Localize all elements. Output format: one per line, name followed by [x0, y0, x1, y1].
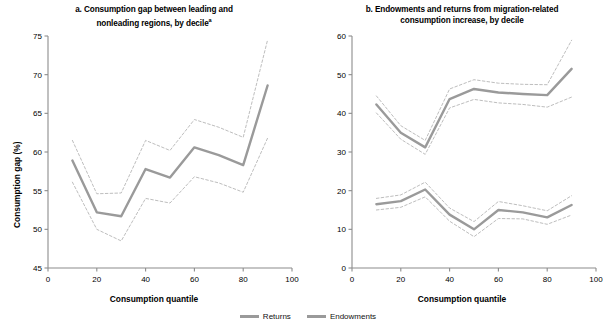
svg-text:10: 10	[337, 225, 346, 234]
svg-text:60: 60	[190, 275, 199, 284]
svg-text:65: 65	[33, 109, 42, 118]
svg-text:100: 100	[285, 275, 299, 284]
svg-text:40: 40	[337, 109, 346, 118]
panel-b-plot: 0102030405060020406080100	[308, 0, 616, 300]
svg-text:20: 20	[337, 187, 346, 196]
svg-text:70: 70	[33, 71, 42, 80]
legend-label-returns: Returns	[263, 312, 291, 321]
svg-text:60: 60	[33, 148, 42, 157]
svg-text:60: 60	[494, 275, 503, 284]
svg-text:0: 0	[342, 264, 347, 273]
legend-line-icon-returns	[240, 315, 259, 317]
chart-panel-a: a. Consumption gap between leading and n…	[0, 0, 308, 310]
legend-item-endowments: Endowments	[307, 312, 376, 321]
panel-a-x-axis-label: Consumption quantile	[0, 294, 308, 304]
svg-text:40: 40	[141, 275, 150, 284]
svg-text:100: 100	[589, 275, 603, 284]
svg-text:80: 80	[543, 275, 552, 284]
svg-text:60: 60	[337, 32, 346, 41]
panel-a-plot: 45505560657075020406080100	[0, 0, 308, 300]
svg-text:45: 45	[33, 264, 42, 273]
svg-text:40: 40	[445, 275, 454, 284]
svg-text:50: 50	[337, 71, 346, 80]
svg-text:0: 0	[350, 275, 355, 284]
svg-text:20: 20	[92, 275, 101, 284]
svg-text:55: 55	[33, 187, 42, 196]
panel-a-y-axis-label: Consumption gap (%)	[12, 141, 22, 228]
svg-text:75: 75	[33, 32, 42, 41]
panel-b-x-axis-label: Consumption quantile	[308, 294, 616, 304]
figure-container: a. Consumption gap between leading and n…	[0, 0, 616, 336]
legend-label-endowments: Endowments	[330, 312, 376, 321]
svg-text:30: 30	[337, 148, 346, 157]
svg-text:20: 20	[396, 275, 405, 284]
svg-text:0: 0	[46, 275, 51, 284]
legend-item-returns: Returns	[240, 312, 291, 321]
chart-panel-b: b. Endowments and returns from migration…	[308, 0, 616, 310]
figure-legend: Returns Endowments	[0, 312, 616, 321]
svg-text:80: 80	[239, 275, 248, 284]
legend-line-icon-endowments	[307, 315, 326, 317]
svg-text:50: 50	[33, 225, 42, 234]
